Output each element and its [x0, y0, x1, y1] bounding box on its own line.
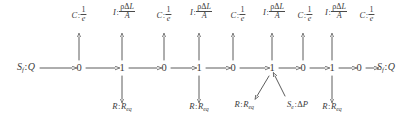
junction-1-4: 1: [329, 63, 334, 74]
element-label-resistance-3: R:Req: [235, 100, 254, 110]
junction-0-2: 0: [161, 63, 166, 74]
element-label-resistance-4: R:Req: [322, 102, 341, 112]
junction-0-1: 0: [76, 63, 81, 74]
element-label-inertance-1: I:ρΔLA: [113, 3, 135, 20]
junction-1-1: 1: [119, 63, 124, 74]
junction-0-4: 0: [300, 63, 305, 74]
element-label-source-effort: Se:ΔP: [287, 100, 308, 110]
element-bond-diagonal-r: [257, 76, 269, 96]
element-label-capacitance-3: C:1e: [230, 6, 245, 23]
lower-bond-group: [122, 76, 332, 99]
junction-1-2: 1: [196, 63, 201, 74]
element-label-inertance-3: I:ρΔLA: [263, 3, 285, 20]
upper-bond-group: [79, 37, 332, 60]
element-label-resistance-2: R:Req: [189, 102, 208, 112]
element-label-inertance-4: I:ρΔLA: [325, 3, 347, 20]
junction-0-5: 0: [356, 63, 361, 74]
source-flow-left: Sf:Q: [17, 62, 35, 74]
element-label-capacitance-4: C:1e: [297, 6, 312, 23]
element-label-capacitance-5: C:1e: [359, 6, 374, 23]
junction-1-3: 1: [269, 63, 274, 74]
junction-0-3: 0: [230, 63, 235, 74]
diagonal-bond-group: [257, 76, 285, 96]
source-flow-right: Sf:Q: [377, 62, 395, 74]
element-label-capacitance-2: C:1e: [156, 6, 171, 23]
element-label-resistance-1: R:Req: [112, 102, 131, 112]
element-label-capacitance-1: C:1e: [71, 6, 86, 23]
element-label-inertance-2: I:ρΔLA: [190, 3, 212, 20]
bond-graph-diagram: Sf:Q 0 1 0 1 0 1 0 1 0 Sf:Q C:1e I:ρΔLA …: [0, 0, 400, 132]
element-bond-diagonal-se: [275, 76, 285, 96]
